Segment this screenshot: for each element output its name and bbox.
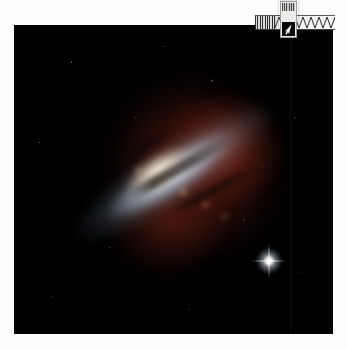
thumbnail-preview-image [282,22,295,36]
frame-seam [290,25,291,334]
star-forming-knots [14,25,333,334]
thumbnail-label-bars-icon [282,3,295,11]
bright-foreground-star [256,248,282,274]
thumbnail-card[interactable] [280,1,297,38]
galaxy-photo [14,25,333,334]
star-diffraction-spike-vertical [268,243,269,279]
waveform-bars-icon [255,16,277,29]
page-background [0,0,347,349]
overlay-widget[interactable] [253,0,335,40]
